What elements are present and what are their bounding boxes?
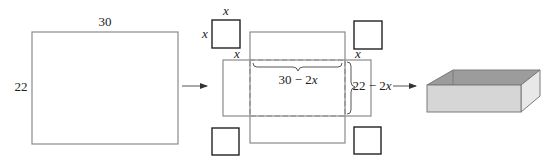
open-box	[427, 70, 540, 112]
sheet-rect	[32, 32, 178, 144]
box-front-face	[427, 85, 521, 112]
cut-square-top-left	[212, 20, 240, 48]
original-sheet: 30 22	[15, 14, 179, 144]
base-width-label: 30 − 2x	[278, 72, 317, 87]
sheet-height-label: 22	[15, 79, 28, 94]
base-height-label: 22 − 2x	[352, 78, 391, 93]
cut-square-top-right	[354, 21, 382, 49]
cut-square-bottom-right	[354, 127, 381, 154]
corner-x-label-right: x	[354, 46, 361, 61]
cut-square-bottom-left	[212, 128, 239, 155]
net-base-dashed-rect	[250, 60, 345, 116]
net-vertical-rect	[250, 32, 345, 143]
base-width-brace-icon	[253, 63, 342, 71]
diagram-canvas: 30 22 30 − 2x 22 − 2x x x x x	[0, 0, 554, 166]
square-top-x-label: x	[222, 3, 229, 18]
sheet-width-label: 30	[99, 14, 112, 29]
square-side-x-label: x	[201, 26, 208, 41]
